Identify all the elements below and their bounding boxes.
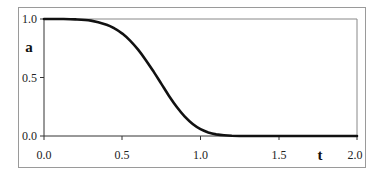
- x-tick-label: 0.0: [37, 148, 52, 162]
- y-tick-labels: 1.0 0.5 0.0: [22, 12, 37, 143]
- plot-area: [40, 19, 357, 140]
- y-tick-label: 1.0: [22, 12, 37, 26]
- y-axis-label: a: [25, 39, 33, 55]
- y-tick-label: 0.5: [22, 71, 37, 85]
- x-tick-label: 1.0: [193, 148, 208, 162]
- x-axis-label: t: [318, 147, 323, 163]
- x-tick-labels: 0.0 0.5 1.0 1.5 2.0: [37, 148, 363, 162]
- x-tick-label: 2.0: [348, 148, 363, 162]
- y-ticks: [40, 19, 44, 136]
- x-tick-label: 1.5: [272, 148, 287, 162]
- y-tick-label: 0.0: [22, 129, 37, 143]
- data-curve: [44, 19, 357, 136]
- chart-svg: 1.0 0.5 0.0 0.0 0.5 1.0 1.5 2.0 a t: [0, 0, 384, 175]
- x-tick-label: 0.5: [115, 148, 130, 162]
